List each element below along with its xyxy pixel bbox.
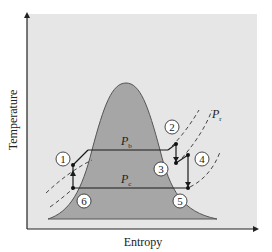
state-5-label: 5 [177, 195, 183, 207]
state-2-label: 2 [169, 121, 175, 133]
state-1-label: 1 [60, 153, 66, 165]
state-6-label: 6 [81, 195, 87, 207]
x-axis-label: Entropy [124, 235, 163, 249]
y-axis-label: Temperature [6, 90, 20, 150]
state-4-label: 4 [199, 153, 205, 165]
ts-diagram: 1 2 3 4 5 6 Pb Pc Pr Entropy Temperature [0, 0, 272, 252]
state-3-label: 3 [158, 163, 164, 175]
